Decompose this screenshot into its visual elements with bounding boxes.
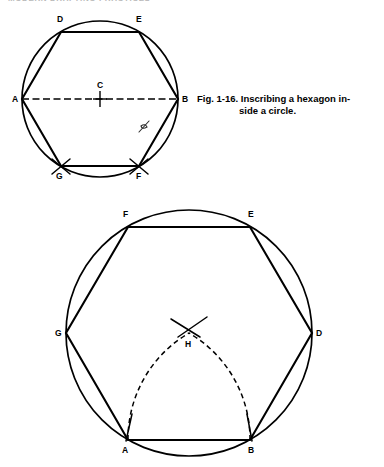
construction-tick-a xyxy=(126,414,132,441)
vertex-label-e: E xyxy=(248,209,254,219)
caption-text-line-1: Inscribing a hexagon in- xyxy=(241,93,350,104)
vertex-label-a: A xyxy=(12,94,18,104)
vertex-label-f: F xyxy=(123,209,128,219)
center-crosshair xyxy=(93,91,107,107)
vertex-label-d: D xyxy=(316,328,322,338)
vertex-label-b: B xyxy=(248,445,254,455)
scan-smudge-artifact xyxy=(139,121,149,132)
figure-top-drawing: A D E B F G C xyxy=(0,8,200,198)
figure-top: A D E B F G C xyxy=(0,8,200,198)
figure-caption: Fig. 1-16. Inscribing a hexagon in- side… xyxy=(197,93,382,117)
figure-bottom-drawing: A B D E F G H xyxy=(52,200,327,467)
vertex-label-g: G xyxy=(56,171,63,181)
dashed-arc-from-a xyxy=(128,333,189,440)
center-label-c: C xyxy=(97,80,103,90)
vertex-label-f: F xyxy=(136,171,141,181)
vertex-label-e: E xyxy=(136,14,142,24)
vertex-label-a: A xyxy=(122,445,128,455)
intersection-label-h: H xyxy=(185,339,191,349)
vertex-label-g: G xyxy=(55,328,62,338)
running-header: MODERN DRAFTING PRACTICES xyxy=(8,0,188,3)
caption-text-line-2: side a circle. xyxy=(197,105,382,117)
vertex-label-d: D xyxy=(57,14,63,24)
dashed-arc-from-b xyxy=(189,333,250,440)
vertex-label-b: B xyxy=(182,94,188,104)
figure-bottom: A B D E F G H xyxy=(52,200,327,467)
construction-tick-h xyxy=(171,317,207,337)
caption-figure-number: Fig. 1-16. xyxy=(197,93,238,104)
